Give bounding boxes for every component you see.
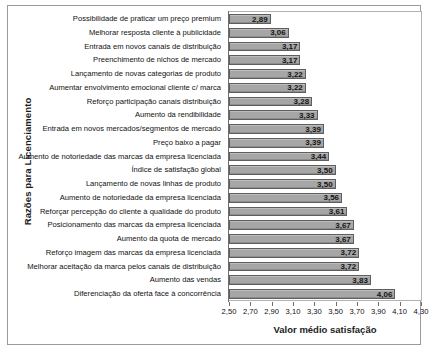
tick-label: 3,30 [307, 307, 322, 316]
bar-value-label: 3,28 [286, 96, 309, 107]
category-label: Aumento de notoriedade das marcas da emp… [9, 150, 221, 164]
category-label: Índice de satisfação global [9, 163, 221, 177]
bar-row: 3,50 [229, 177, 421, 191]
bar-value-label: 3,83 [345, 275, 368, 286]
bar-value-label: 2,89 [245, 14, 268, 25]
bar-row: 3,06 [229, 26, 421, 40]
x-axis-title: Valor médio satisfação [228, 324, 422, 335]
bar-value-label: 3,44 [303, 151, 326, 162]
category-label: Entrada em novos mercados/segmentos de m… [9, 122, 221, 136]
bar-value-label: 3,39 [298, 124, 321, 135]
tick-label: 3,70 [350, 307, 365, 316]
bar-row: 4,06 [229, 287, 421, 301]
bar-row: 3,56 [229, 191, 421, 205]
chart-figure: Razões para Licenciamento Possibilidade … [7, 5, 421, 345]
bar-value-label: 3,22 [280, 82, 303, 93]
category-label: Diferenciação da oferta face à concorrên… [9, 287, 221, 301]
bar-row: 3,22 [229, 67, 421, 81]
value-axis-ticks: 2,502,702,903,103,303,503,703,904,104,30 [228, 302, 422, 322]
tick-mark [250, 302, 251, 306]
bar-row: 3,67 [229, 218, 421, 232]
category-label: Preenchimento de nichos de mercado [9, 53, 221, 67]
tick-label: 2,90 [264, 307, 279, 316]
bar-series: 2,893,063,173,173,223,223,283,333,393,39… [229, 12, 421, 301]
category-label: Aumento de notoriedade da empresa licenc… [9, 191, 221, 205]
bar-row: 3,39 [229, 122, 421, 136]
category-label: Preço baixo a pagar [9, 136, 221, 150]
bar-row: 3,17 [229, 40, 421, 54]
bar-value-label: 3,72 [333, 261, 356, 272]
category-label: Possibilidade de praticar um preço premi… [9, 12, 221, 26]
tick-mark [336, 302, 337, 306]
tick-mark [293, 302, 294, 306]
tick-mark [357, 302, 358, 306]
category-label: Melhorar resposta cliente à publicidade [9, 26, 221, 40]
bar-value-label: 3,17 [274, 41, 297, 52]
category-label: Aumentar envolvimento emocional cliente … [9, 81, 221, 95]
tick-label: 4,10 [392, 307, 407, 316]
bar-value-label: 3,17 [274, 55, 297, 66]
category-label: Lançamento de novas linhas de produto [9, 177, 221, 191]
tick-mark [314, 302, 315, 306]
tick-mark [400, 302, 401, 306]
tick-label: 3,90 [371, 307, 386, 316]
tick-label: 4,30 [414, 307, 429, 316]
bar-row: 3,83 [229, 273, 421, 287]
bar-value-label: 3,72 [333, 247, 356, 258]
bar-row: 3,17 [229, 53, 421, 67]
tick-label: 2,70 [243, 307, 258, 316]
bar-value-label: 3,50 [310, 179, 333, 190]
bar-row: 2,89 [229, 12, 421, 26]
bar-value-label: 3,67 [328, 234, 351, 245]
tick-mark [378, 302, 379, 306]
bar-value-label: 3,06 [263, 27, 286, 38]
category-axis-labels: Possibilidade de praticar um preço premi… [8, 12, 225, 301]
tick-label: 3,50 [328, 307, 343, 316]
bar-row: 3,61 [229, 205, 421, 219]
bar-value-label: 3,67 [328, 220, 351, 231]
category-label: Melhorar aceitação da marca pelos canais… [9, 260, 221, 274]
category-label: Lançamento de novas categorias de produt… [9, 67, 221, 81]
tick-label: 2,50 [222, 307, 237, 316]
bar-row: 3,67 [229, 232, 421, 246]
bar-value-label: 3,39 [298, 137, 321, 148]
category-label: Reforço imagem das marcas da empresa lic… [9, 246, 221, 260]
bar-row: 3,33 [229, 108, 421, 122]
tick-label: 3,10 [286, 307, 301, 316]
bar-value-label: 3,33 [292, 110, 315, 121]
category-label: Posicionamento das marcas da empresa lic… [9, 218, 221, 232]
category-label: Aumento da rendibilidade [9, 108, 221, 122]
bar-value-label: 3,61 [321, 206, 344, 217]
bar-row: 3,72 [229, 260, 421, 274]
bar-row: 3,72 [229, 246, 421, 260]
tick-mark [421, 302, 422, 306]
bar-row: 3,22 [229, 81, 421, 95]
bar-value-label: 4,06 [369, 289, 392, 300]
tick-mark [229, 302, 230, 306]
tick-mark [272, 302, 273, 306]
category-label: Reforço participação canais distribuição [9, 95, 221, 109]
category-label: Aumento da quota de mercado [9, 232, 221, 246]
bar-row: 3,50 [229, 163, 421, 177]
bar-row: 3,28 [229, 95, 421, 109]
bar-value-label: 3,22 [280, 69, 303, 80]
bar-row: 3,44 [229, 150, 421, 164]
category-label: Reforçar percepção do cliente à qualidad… [9, 205, 221, 219]
category-label: Aumento das vendas [9, 273, 221, 287]
bar-row: 3,39 [229, 136, 421, 150]
bar-value-label: 3,56 [316, 192, 339, 203]
bar-value-label: 3,50 [310, 165, 333, 176]
category-label: Entrada em novos canais de distribuição [9, 40, 221, 54]
